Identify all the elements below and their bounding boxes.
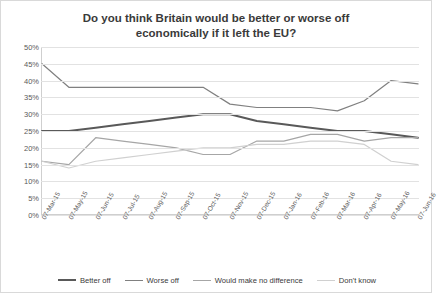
legend-label: Worse off [147,276,179,285]
y-tick-label: 0% [5,211,39,220]
series-line [42,114,418,138]
legend-label: Better off [80,276,111,285]
legend-swatch-icon [317,280,335,281]
chart-legend: Better offWorse offWould make no differe… [1,269,433,291]
x-axis-labels: 07-Mar-1507-May-1507-Jun-1507-Jul-1507-A… [41,215,419,270]
y-tick-label: 35% [5,93,39,102]
x-tick-label: 07-Jun-16 [416,191,437,220]
y-tick-label: 15% [5,160,39,169]
gridline [41,165,419,166]
series-line [42,134,418,164]
gridline [41,131,419,132]
chart-title: Do you think Britain would be better or … [56,11,376,41]
y-tick-label: 45% [5,59,39,68]
y-tick-label: 5% [5,194,39,203]
gridline [41,114,419,115]
y-tick-label: 30% [5,110,39,119]
gridline [41,64,419,65]
legend-item[interactable]: Worse off [125,276,179,285]
y-tick-label: 25% [5,127,39,136]
legend-swatch-icon [125,280,143,281]
legend-item[interactable]: Better off [58,276,111,285]
gridline [41,97,419,98]
legend-label: Would make no difference [215,276,303,285]
y-tick-label: 40% [5,76,39,85]
gridline [41,81,419,82]
y-axis-labels: 0%5%10%15%20%25%30%35%40%45%50% [1,47,39,215]
legend-item[interactable]: Don't know [317,276,376,285]
y-tick-label: 10% [5,177,39,186]
series-line [42,64,418,111]
y-tick-label: 20% [5,143,39,152]
gridline [41,198,419,199]
legend-swatch-icon [193,280,211,281]
gridline [41,47,419,48]
plot-area [41,47,419,215]
legend-label: Don't know [339,276,376,285]
y-tick-label: 50% [5,43,39,52]
gridline [41,181,419,182]
gridline [41,148,419,149]
legend-swatch-icon [58,279,76,281]
legend-item[interactable]: Would make no difference [193,276,303,285]
